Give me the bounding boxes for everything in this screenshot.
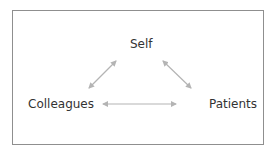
node-patients: Patients bbox=[209, 97, 257, 111]
node-self: Self bbox=[130, 37, 153, 51]
node-colleagues: Colleagues bbox=[28, 97, 94, 111]
arrow-colleagues-self bbox=[89, 61, 116, 88]
arrow-self-patients bbox=[163, 61, 191, 88]
relationship-arrows bbox=[0, 0, 278, 155]
